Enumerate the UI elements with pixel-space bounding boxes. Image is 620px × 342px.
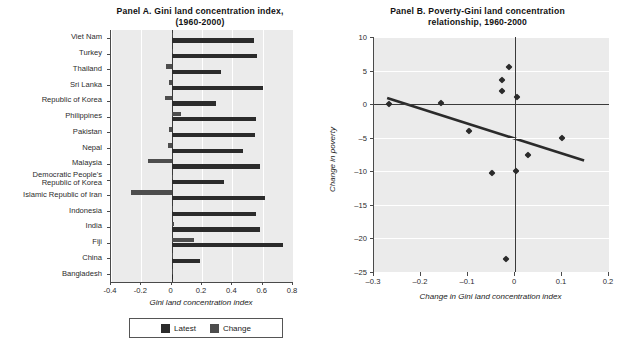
panel-a-bar-change (172, 33, 173, 37)
panel-b-x-tick (561, 272, 562, 276)
panel-a-bar-latest (172, 101, 216, 105)
panel-b-y-tick-label: –25 (354, 268, 367, 277)
panel-b-x-tick (608, 272, 609, 276)
panel-b-x-tick (420, 272, 421, 276)
panel-a-category-label: Democratic People'sRepublic of Korea (33, 171, 102, 188)
panel-b: Panel B. Poverty-Gini land concentration… (310, 0, 620, 342)
panel-a-x-tick-label: 0 (169, 286, 173, 295)
panel-b-gridline (374, 71, 609, 72)
panel-a-bar-latest (172, 275, 173, 279)
legend-item-change[interactable]: Change (210, 324, 251, 333)
panel-a-y-tick (107, 227, 110, 228)
panel-a-y-tick (107, 180, 110, 181)
panel-a-category-label: Indonesia (69, 207, 102, 216)
panel-b-x-tick-label: 0 (512, 277, 516, 286)
panel-a-bar-change (172, 175, 173, 179)
panel-b-gridline (374, 37, 609, 38)
panel-a-x-tick (110, 282, 111, 285)
panel-a-bar-latest (172, 149, 243, 153)
panel-a-bar-change (172, 269, 173, 273)
panel-b-x-tick (514, 272, 515, 276)
panel-b-title: Panel B. Poverty-Gini land concentration… (370, 6, 585, 28)
panel-a-y-tick (107, 164, 110, 165)
panel-a-category-label: Thailand (73, 65, 102, 74)
panel-a-y-tick (107, 195, 110, 196)
panel-a-x-tick (201, 282, 202, 285)
panel-a: Panel A. Gini land concentration index, … (0, 0, 310, 342)
panel-a-bar-change (169, 127, 171, 131)
panel-b-y-tick-label: 5 (363, 66, 367, 75)
panel-a-x-tick (140, 282, 141, 285)
panel-a-bar-change (165, 96, 172, 100)
panel-a-y-tick (107, 85, 110, 86)
panel-b-trend-segment (387, 98, 584, 160)
panel-a-y-tick (107, 211, 110, 212)
panel-a-y-tick (107, 243, 110, 244)
panel-b-y-tick (370, 171, 373, 172)
panel-a-bar-latest (172, 133, 255, 137)
panel-b-x-tick-label: –0.1 (460, 277, 475, 286)
panel-a-y-tick (107, 38, 110, 39)
panel-a-x-tick (171, 282, 172, 285)
panel-a-bar-latest (172, 117, 256, 121)
panel-a-bar-latest (172, 227, 261, 231)
panel-a-category-labels: Viet NamTurkeyThailandSri LankaRepublic … (0, 30, 106, 282)
panel-a-y-tick (107, 101, 110, 102)
panel-a-category-label: Bangladesh (62, 270, 102, 279)
panel-a-category-label: China (82, 254, 102, 263)
panel-a-x-tick-label: -0.4 (103, 286, 116, 295)
panel-b-gridline (374, 205, 609, 206)
panel-a-category-label: Republic of Korea (42, 96, 102, 105)
legend-item-latest[interactable]: Latest (161, 324, 196, 333)
panel-b-x-tick (467, 272, 468, 276)
panel-a-bar-change (172, 253, 173, 257)
panel-a-x-tick-label: 0.2 (196, 286, 207, 295)
panel-a-bar-latest (172, 54, 258, 58)
panel-b-x-tick-label: –0.3 (366, 277, 381, 286)
panel-a-y-tick (107, 69, 110, 70)
panel-a-bar-change (172, 222, 174, 226)
panel-a-y-tick (107, 274, 110, 275)
panel-b-x-tick-label: 0.2 (603, 277, 614, 286)
panel-a-x-axis-title: Gini land concentration index (110, 298, 292, 307)
legend-swatch-latest (161, 324, 170, 333)
panel-b-y-tick (370, 37, 373, 38)
panel-b-y-tick-label: 0 (363, 100, 367, 109)
panel-a-gridline (141, 30, 142, 282)
panel-a-bar-latest (172, 180, 224, 184)
panel-b-y-tick (370, 104, 373, 105)
panel-a-category-label: Viet Nam (71, 33, 102, 42)
panel-b-y-axis-title: Change in poverty (328, 105, 337, 215)
panel-b-zero-horizontal (374, 104, 609, 105)
panel-a-bar-change (131, 190, 171, 194)
legend-label-latest: Latest (174, 324, 196, 333)
panel-a-bar-change (172, 49, 173, 53)
panel-a-category-label: Philippines (65, 112, 102, 121)
panel-b-x-axis-title: Change in Gini land concentration index (373, 292, 608, 301)
panel-a-y-tick (107, 54, 110, 55)
panel-a-bar-latest (172, 243, 283, 247)
panel-b-y-tick (370, 238, 373, 239)
panel-b-y-tick (370, 138, 373, 139)
panel-a-bar-latest (172, 70, 221, 74)
panel-a-bar-latest (172, 38, 255, 42)
figure-root: Panel A. Gini land concentration index, … (0, 0, 620, 342)
panel-a-x-tick (292, 282, 293, 285)
panel-a-y-tick (107, 132, 110, 133)
panel-b-y-tick-label: –20 (354, 234, 367, 243)
panel-a-bar-change (169, 80, 171, 84)
panel-b-y-tick-label: –10 (354, 167, 367, 176)
panel-a-x-tick-label: 0.6 (256, 286, 267, 295)
panel-a-bar-change (148, 159, 172, 163)
panel-b-gridline (374, 138, 609, 139)
panel-a-bar-latest (172, 259, 200, 263)
panel-b-y-tick-label: –15 (354, 200, 367, 209)
panel-a-bar-change (172, 206, 173, 210)
panel-b-x-tick (373, 272, 374, 276)
panel-a-x-tick-label: 0.8 (287, 286, 298, 295)
panel-b-gridline (374, 272, 609, 273)
panel-a-gridline (293, 30, 294, 282)
panel-a-bar-latest (172, 86, 264, 90)
panel-b-y-tick (370, 71, 373, 72)
panel-b-y-tick-label: –5 (359, 133, 367, 142)
